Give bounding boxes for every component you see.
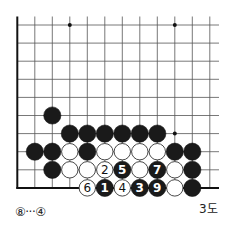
move-number: 3 [136, 181, 144, 195]
white-stone [114, 144, 130, 160]
black-stone [96, 125, 113, 142]
black-stone [149, 125, 166, 142]
black-stone [44, 161, 61, 178]
star-point-icon [173, 23, 177, 27]
black-stone [79, 125, 96, 142]
move-number: 9 [153, 181, 161, 195]
black-stone: 3 [131, 179, 148, 196]
white-stone: 4 [114, 180, 130, 196]
black-stone: 9 [149, 179, 166, 196]
white-stone: 6 [79, 180, 95, 196]
move-number: 2 [101, 163, 109, 177]
move-number: 1 [101, 181, 109, 195]
white-stone [167, 180, 183, 196]
white-stone [132, 162, 148, 178]
black-stone: 1 [96, 179, 113, 196]
white-stone [132, 144, 148, 160]
black-stone [61, 125, 78, 142]
figure-label: 3도 [199, 199, 218, 216]
black-stone: 7 [149, 161, 166, 178]
move-number: 5 [118, 163, 126, 177]
black-stone [166, 143, 183, 160]
white-stone [79, 162, 95, 178]
black-stone: 5 [114, 161, 131, 178]
white-stone [97, 144, 113, 160]
black-stone [44, 143, 61, 160]
black-stone [131, 125, 148, 142]
black-stone [184, 179, 201, 196]
move-number: 4 [118, 181, 126, 195]
white-stone [149, 144, 165, 160]
black-stone [184, 161, 201, 178]
white-stone: 2 [97, 162, 113, 178]
black-stone [26, 143, 43, 160]
move-note: ⑧···④ [15, 205, 45, 219]
black-stone [44, 107, 61, 124]
white-stone [62, 162, 78, 178]
move-number: 6 [83, 181, 91, 195]
star-point-icon [68, 23, 72, 27]
black-stone [114, 125, 131, 142]
star-point-icon [173, 132, 177, 136]
black-stone [79, 143, 96, 160]
white-stone [167, 162, 183, 178]
go-board: 25761439 [0, 0, 237, 225]
move-number: 7 [153, 163, 161, 177]
white-stone [62, 144, 78, 160]
black-stone [184, 143, 201, 160]
